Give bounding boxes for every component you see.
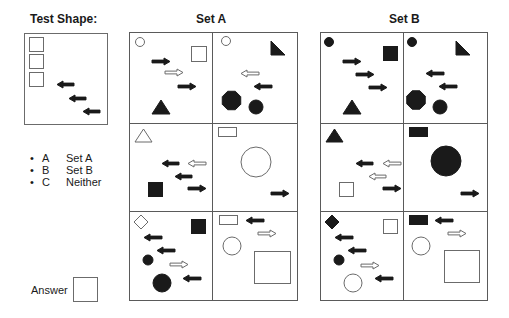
circle-shape <box>325 38 334 47</box>
arrow-shape <box>254 83 272 90</box>
circle-shape <box>431 146 461 176</box>
set-a-cell-6-figure <box>213 212 297 300</box>
option-bullet: • <box>30 164 42 176</box>
set-a-cell-5 <box>130 212 212 300</box>
arrow-shape <box>335 234 353 241</box>
set-a-cell-5-figure <box>130 212 212 300</box>
answer-input[interactable] <box>73 277 98 302</box>
arrow-shape <box>152 58 170 65</box>
arrow-shape <box>448 230 466 237</box>
option-b[interactable]: •BSet B <box>30 164 93 176</box>
option-c[interactable]: •CNeither <box>30 176 101 188</box>
rect-shape <box>219 128 237 137</box>
circle-shape <box>344 274 362 292</box>
arrow-shape <box>69 95 86 102</box>
option-label: Set A <box>66 152 92 164</box>
rect-shape <box>410 216 428 225</box>
set-b-cell-2 <box>404 33 487 123</box>
triangle-shape <box>152 100 170 114</box>
arrow-shape <box>246 217 264 224</box>
test-shape-box <box>24 33 108 125</box>
option-label: Set B <box>66 164 93 176</box>
square-shape <box>340 183 354 197</box>
arrow-shape <box>165 69 183 76</box>
set-b-cell-6-figure <box>404 212 487 300</box>
rect-shape <box>220 216 238 225</box>
set-b-cell-3-figure <box>321 124 403 211</box>
arrow-shape <box>439 83 457 90</box>
option-label: Neither <box>66 176 101 188</box>
set-b-cell-4-figure <box>404 124 487 211</box>
square-shape <box>192 220 206 234</box>
circle-shape <box>249 100 263 114</box>
circle-shape <box>153 274 171 292</box>
circle-shape <box>334 255 344 265</box>
arrow-shape <box>157 247 175 254</box>
set-a-cell-3 <box>130 124 212 211</box>
arrow-shape <box>175 173 192 180</box>
arrow-shape <box>369 173 386 180</box>
square-shape <box>30 55 44 69</box>
arrow-shape <box>258 230 276 237</box>
set-b-cell-4 <box>404 124 487 211</box>
circle-shape <box>433 100 447 114</box>
option-a[interactable]: •ASet A <box>30 152 92 164</box>
option-bullet: • <box>30 176 42 188</box>
triangle-shape <box>135 129 152 142</box>
circle-shape <box>408 38 417 47</box>
arrow-shape <box>348 247 366 254</box>
square-shape <box>255 252 291 284</box>
arrow-shape <box>178 83 196 90</box>
test-shape-heading: Test Shape: <box>30 12 97 26</box>
arrow-shape <box>241 70 259 77</box>
set-a-cell-2 <box>213 33 297 123</box>
arrow-shape <box>343 58 361 65</box>
arrow-shape <box>356 71 374 78</box>
set-a-cell-2-figure <box>213 33 297 123</box>
arrow-shape <box>435 217 453 224</box>
set-a-heading: Set A <box>196 12 226 26</box>
set-a-cell-4-figure <box>213 124 297 211</box>
right-triangle-shape <box>456 41 470 55</box>
set-a-panel <box>129 32 298 301</box>
triangle-shape <box>343 100 361 114</box>
set-b-cell-6 <box>404 212 487 300</box>
arrow-shape <box>162 160 179 167</box>
option-bullet: • <box>30 152 42 164</box>
set-a-cell-3-figure <box>130 124 212 211</box>
square-shape <box>384 47 398 61</box>
arrow-shape <box>461 190 479 197</box>
circle-shape <box>241 147 271 177</box>
circle-shape <box>136 38 145 47</box>
triangle-shape <box>326 129 343 142</box>
arrow-shape <box>271 190 289 197</box>
arrow-shape <box>188 185 206 192</box>
square-shape <box>30 73 44 87</box>
octagon-shape <box>407 91 425 109</box>
square-shape <box>445 251 480 283</box>
answer-label: Answer <box>31 284 68 296</box>
set-b-cell-5 <box>321 212 403 300</box>
arrow-shape <box>375 275 393 282</box>
diamond-shape <box>134 215 148 229</box>
circle-shape <box>143 255 153 265</box>
arrow-shape <box>369 84 387 91</box>
option-key: C <box>42 176 66 188</box>
set-b-cell-1-figure <box>321 33 403 123</box>
arrow-shape <box>383 185 401 192</box>
arrow-shape <box>57 81 74 88</box>
set-b-cell-1 <box>321 33 403 123</box>
set-a-cell-1-figure <box>130 33 212 123</box>
set-b-cell-3 <box>321 124 403 211</box>
set-b-heading: Set B <box>389 12 420 26</box>
arrow-shape <box>170 261 188 268</box>
square-shape <box>192 47 207 62</box>
set-b-cell-2-figure <box>404 33 487 123</box>
set-a-cell-4 <box>213 124 297 211</box>
arrow-shape <box>183 275 201 282</box>
circle-shape <box>222 37 231 46</box>
set-a-cell-1 <box>130 33 212 123</box>
rect-shape <box>410 128 428 137</box>
arrow-shape <box>83 108 100 115</box>
option-key: A <box>42 152 66 164</box>
